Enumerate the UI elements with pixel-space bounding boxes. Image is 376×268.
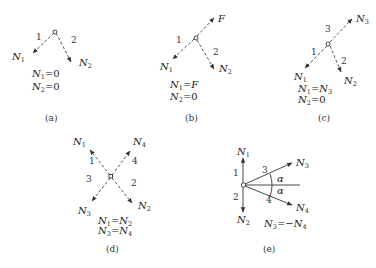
member-1-number: 1: [89, 156, 95, 166]
member-3-arrow: [245, 163, 292, 184]
panel-caption-d: (d): [106, 244, 119, 254]
equation-1: N3=−N4: [263, 218, 307, 231]
panel-a: 1 2 N1 N2 N1=0 N2=0 (a): [11, 30, 92, 123]
member-2-arrow: [56, 33, 71, 62]
member-4-arrow: [112, 151, 130, 175]
angle-label-upper: α: [277, 173, 284, 184]
member-3-number: 3: [86, 174, 92, 184]
force-label-n1: N1: [159, 61, 173, 74]
force-label-n1: N1: [11, 51, 25, 64]
member-4-number: 4: [132, 156, 138, 166]
force-label-n2: N2: [78, 57, 92, 70]
force-label-n3: N3: [295, 157, 309, 170]
equation-2: N2=0: [31, 81, 60, 94]
member-2-number: 2: [213, 47, 219, 57]
equation-2: N3=N4: [97, 225, 132, 238]
member-2-number: 2: [71, 35, 77, 45]
truss-zero-force-diagram: 1 2 N1 N2 N1=0 N2=0 (a) F 1 2 N1 N2 N1=F…: [0, 0, 376, 268]
joint-node: [194, 36, 198, 40]
joint-node: [326, 42, 330, 46]
member-2-arrow: [330, 46, 341, 72]
force-label-n1: N1: [72, 136, 86, 149]
panel-b: F 1 2 N1 N2 N1=F N2=0 (b): [159, 13, 232, 123]
force-label-n4: N4: [132, 136, 146, 149]
force-label-n3: N3: [77, 205, 91, 218]
member-1-number: 1: [36, 32, 42, 42]
panel-c: N3 3 1 2 N1 N2 N1=N3 N2=0 (c): [293, 13, 369, 123]
member-3-arrow: [330, 19, 352, 42]
load-f-arrow: [197, 18, 214, 36]
panel-e: N1 1 2 3 4 α α N3 N4 N2 N3=−N4 (e): [233, 146, 309, 254]
member-3-number: 3: [325, 24, 331, 34]
panel-caption-b: (b): [185, 113, 198, 123]
force-label-n2: N2: [137, 200, 151, 213]
member-1-number: 1: [233, 168, 239, 178]
equation-1: N1=0: [31, 68, 60, 81]
joint-node: [53, 30, 57, 34]
member-2-number: 2: [233, 192, 239, 202]
force-label-n2: N2: [218, 63, 232, 76]
load-label-f: F: [217, 13, 226, 24]
member-2-arrow: [197, 40, 214, 69]
angle-arc-upper: [270, 174, 272, 185]
equation-2: N2=0: [169, 91, 198, 104]
force-label-n4: N4: [295, 202, 309, 215]
member-2-arrow: [112, 178, 132, 203]
force-label-n2: N2: [343, 75, 357, 88]
panel-caption-c: (c): [318, 113, 330, 123]
equation-2: N2=0: [297, 94, 326, 107]
member-4-number: 4: [266, 195, 272, 205]
force-label-n2: N2: [236, 214, 250, 227]
joint-node: [109, 175, 113, 179]
member-1-number: 1: [311, 47, 317, 57]
member-2-number: 2: [131, 178, 137, 188]
joint-node: [241, 183, 245, 187]
panel-caption-e: (e): [263, 244, 275, 254]
panel-caption-a: (a): [45, 113, 57, 123]
member-3-arrow: [92, 178, 110, 201]
member-1-number: 1: [176, 35, 182, 45]
member-3-number: 3: [262, 165, 268, 175]
force-label-n3: N3: [355, 13, 369, 26]
panel-d: N1 N4 1 4 3 2 N3 N2 N1=N2 N3=N4 (d): [72, 136, 151, 254]
force-label-n1: N1: [236, 146, 250, 159]
angle-label-lower: α: [277, 185, 284, 196]
member-2-number: 2: [341, 56, 347, 66]
